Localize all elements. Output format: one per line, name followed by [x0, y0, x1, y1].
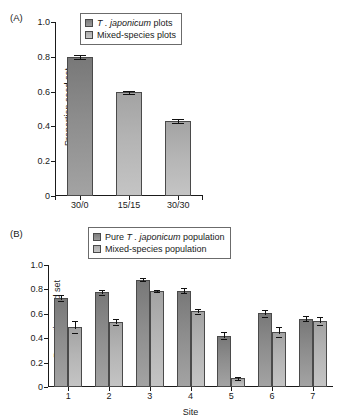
legend-item-pure-population: Pure T . japonicum population	[93, 231, 225, 243]
panel-b-label: (B)	[10, 228, 23, 239]
y-tick-mark	[44, 387, 48, 388]
y-tick-label: 0.4	[37, 121, 50, 131]
y-tick-label: 0	[38, 382, 43, 392]
x-tick-mark	[80, 196, 81, 200]
error-bar-cap-upper	[221, 332, 227, 333]
error-bar-cap-lower	[123, 94, 135, 95]
bar	[217, 336, 231, 387]
y-tick-label: 0.2	[37, 156, 50, 166]
error-bar-cap-lower	[74, 59, 86, 60]
x-tick-mark	[191, 387, 192, 391]
y-tick-mark	[51, 92, 55, 93]
bar	[191, 311, 205, 387]
error-bar-cap-upper	[58, 295, 64, 296]
y-tick-label: 0.6	[37, 87, 50, 97]
x-tick-mark	[150, 387, 151, 391]
error-bar-cap-upper	[276, 327, 282, 328]
x-tick-label: 1	[66, 391, 71, 401]
legend-swatch-dark-icon	[93, 233, 101, 241]
x-tick-mark	[68, 387, 69, 391]
error-bar-cap-lower	[221, 339, 227, 340]
bar	[95, 292, 109, 387]
bar	[54, 298, 68, 387]
bar	[177, 291, 191, 387]
error-bar-cap-lower	[58, 301, 64, 302]
error-bar	[75, 321, 76, 329]
y-tick-mark	[51, 126, 55, 127]
error-bar-cap-upper	[262, 310, 268, 311]
x-tick-mark	[231, 387, 232, 391]
bar	[165, 121, 191, 196]
x-tick-mark	[313, 387, 314, 391]
error-bar-cap-lower	[154, 292, 160, 293]
legend-item-mixed-population: Mixed-species population	[93, 243, 225, 255]
panel-a-plot-area: Proportion seed set 00.20.40.60.81.0 30/…	[55, 22, 203, 196]
y-tick-label: 1.0	[30, 260, 43, 270]
error-bar-cap-lower	[317, 325, 323, 326]
y-tick-label: 0.2	[30, 358, 43, 368]
bar	[258, 313, 272, 387]
x-tick-label: 30/0	[71, 200, 89, 210]
error-bar-cap-upper	[181, 288, 187, 289]
error-bar-cap-upper	[317, 317, 323, 318]
panel-b-plot-area: Proportion seed set 00.20.40.60.81.0 123…	[48, 265, 333, 387]
error-bar-cap-upper	[74, 55, 86, 56]
y-tick-label: 0.8	[30, 284, 43, 294]
error-bar-cap-lower	[113, 325, 119, 326]
x-tick-mark	[272, 387, 273, 391]
error-bar-cap-lower	[262, 317, 268, 318]
y-tick-label: 0	[45, 191, 50, 201]
y-tick-mark	[44, 338, 48, 339]
error-bar-cap-upper	[123, 91, 135, 92]
x-tick-label: 6	[269, 391, 274, 401]
x-tick-label: 4	[188, 391, 193, 401]
error-bar-cap-lower	[99, 295, 105, 296]
panel-b-y-axis	[48, 265, 49, 387]
y-tick-label: 0.8	[37, 52, 50, 62]
error-bar-cap-lower	[195, 314, 201, 315]
error-bar-cap-upper	[99, 290, 105, 291]
bar	[272, 332, 286, 387]
bar	[67, 57, 93, 196]
y-tick-mark	[44, 289, 48, 290]
error-bar-cap-upper	[303, 316, 309, 317]
y-tick-mark	[44, 363, 48, 364]
y-tick-mark	[51, 22, 55, 23]
y-tick-mark	[44, 314, 48, 315]
y-tick-mark	[44, 265, 48, 266]
error-bar-cap-lower	[181, 293, 187, 294]
panel-b: (B) Pure T . japonicum population Mixed-…	[0, 216, 353, 418]
error-bar-cap-upper	[195, 309, 201, 310]
x-tick-label: 2	[107, 391, 112, 401]
panel-a-y-axis	[55, 22, 56, 196]
bar	[116, 92, 142, 196]
x-axis-end-tick	[55, 196, 56, 200]
error-bar-cap-lower	[172, 123, 184, 124]
error-bar	[279, 327, 280, 334]
error-bar-cap-upper	[113, 319, 119, 320]
bar	[150, 291, 164, 387]
error-bar-cap-lower	[72, 333, 78, 334]
x-tick-mark	[129, 196, 130, 200]
bar	[299, 319, 313, 387]
bar	[109, 322, 123, 387]
x-tick-label: 30/30	[167, 200, 190, 210]
x-tick-mark	[109, 387, 110, 391]
x-tick-label: 5	[229, 391, 234, 401]
error-bar-cap-lower	[303, 321, 309, 322]
bar	[313, 321, 327, 387]
error-bar-cap-upper	[154, 290, 160, 291]
panel-b-x-axis-title: Site	[183, 407, 199, 417]
panel-b-legend: Pure T . japonicum population Mixed-spec…	[88, 227, 231, 259]
error-bar-cap-upper	[72, 321, 78, 322]
error-bar-cap-lower	[235, 380, 241, 381]
figure-panels: (A) T . japonicum plots Mixed-species pl…	[0, 0, 353, 418]
panel-a-label: (A)	[10, 12, 23, 23]
y-tick-label: 0.6	[30, 309, 43, 319]
error-bar-cap-upper	[140, 278, 146, 279]
error-bar-cap-lower	[276, 337, 282, 338]
bar	[136, 280, 150, 387]
legend-swatch-light-icon	[93, 245, 101, 253]
y-tick-mark	[51, 57, 55, 58]
error-bar-cap-lower	[140, 281, 146, 282]
